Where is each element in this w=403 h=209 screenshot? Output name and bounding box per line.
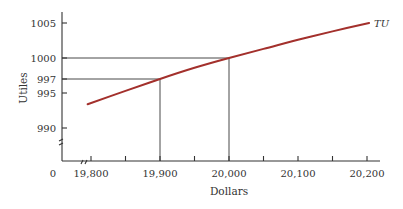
y-tick-label: 1000 xyxy=(31,53,56,64)
y-tick-label: 990 xyxy=(37,123,56,134)
x-tick-label: 19,900 xyxy=(143,168,178,179)
series-label-tu: TU xyxy=(374,18,390,29)
y-tick-label: 1005 xyxy=(31,18,56,29)
total-utility-chart: 99099599710001005 19,80019,90020,00020,1… xyxy=(0,0,403,209)
origin-label: 0 xyxy=(50,168,56,179)
y-axis-label: Utiles xyxy=(17,72,29,103)
tu-curve xyxy=(88,23,370,104)
reference-lines xyxy=(62,58,229,161)
axes xyxy=(59,12,380,164)
x-tick-label: 20,100 xyxy=(281,168,316,179)
x-tick-label: 19,800 xyxy=(74,168,109,179)
x-tick-label: 20,200 xyxy=(350,168,385,179)
y-tick-label: 995 xyxy=(37,88,56,99)
x-tick-label: 20,000 xyxy=(212,168,247,179)
y-tick-label: 997 xyxy=(37,74,56,85)
x-axis-label: Dollars xyxy=(210,185,248,197)
